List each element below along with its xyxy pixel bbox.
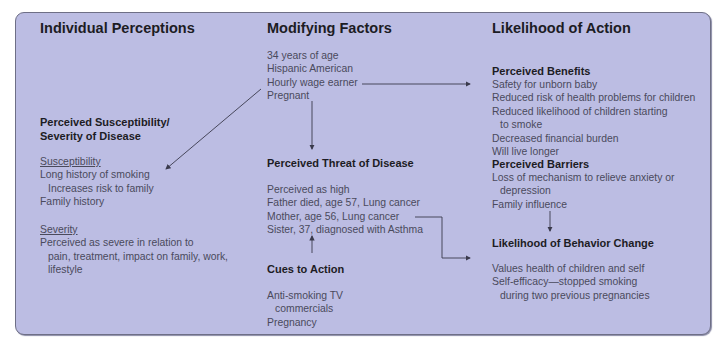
arrow-to-behavior-change — [415, 217, 470, 258]
arrow-to-susceptibility — [166, 89, 261, 169]
arrows-layer — [0, 0, 724, 348]
